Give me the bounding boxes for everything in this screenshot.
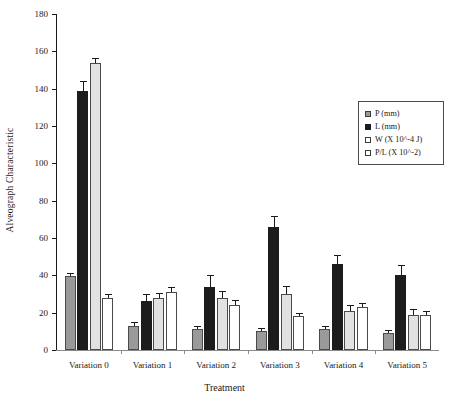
bar [166,292,177,350]
error-bar [401,266,402,275]
bar-group [375,14,439,350]
error-bar [83,82,84,90]
error-bar [274,217,275,226]
error-bar [95,59,96,64]
error-bar-cap [207,275,214,276]
bar [357,307,368,350]
error-bar-cap [296,313,303,314]
error-bar-cap [194,326,201,327]
error-bar-cap [156,293,163,294]
error-bar-cap [271,216,278,217]
x-tick-mark [375,350,376,354]
error-bar [197,327,198,330]
legend-swatch-w [365,137,371,143]
bar-group [248,14,312,350]
error-bar-cap [168,287,175,288]
plot-area [57,14,439,350]
bar [293,316,304,350]
legend-swatch-l [365,124,371,130]
legend-swatch-p [365,111,371,117]
error-bar [299,314,300,317]
error-bar-cap [410,309,417,310]
chart-legend: P (mm) L (mm) W (X 10^-4 J) P/L (X 10^-2… [358,101,444,165]
error-bar-cap [258,328,265,329]
bar [268,227,279,350]
legend-label-w: W (X 10^-4 J) [375,135,422,144]
bar [395,275,406,350]
bar-group [121,14,185,350]
error-bar-cap [359,303,366,304]
error-bar [350,306,351,311]
legend-swatch-pl [365,150,371,156]
legend-label-pl: P/L (X 10^-2) [375,148,421,157]
error-bar [362,304,363,307]
y-tick-label: 100 [20,159,48,168]
error-bar [210,276,211,286]
x-tick-mark [312,350,313,354]
bar [344,311,355,350]
y-tick-label: 80 [20,196,48,205]
x-tick-label: Variation 1 [133,360,173,370]
y-tick-label: 0 [20,346,48,355]
bar [102,298,113,350]
x-tick-mark [184,350,185,354]
error-bar [146,295,147,302]
error-bar [235,301,236,305]
x-tick-label: Variation 5 [387,360,427,370]
bar [229,305,240,350]
error-bar-cap [398,265,405,266]
error-bar [159,294,160,298]
bar [332,264,343,350]
x-tick-label: Variation 2 [196,360,236,370]
error-bar-cap [322,326,329,327]
bar [128,326,139,350]
error-bar [286,287,287,294]
bar [256,331,267,350]
bar [65,276,76,350]
error-bar-cap [92,58,99,59]
error-bar-cap [131,322,138,323]
x-tick-mark [248,350,249,354]
y-tick-label: 20 [20,308,48,317]
error-bar-cap [347,305,354,306]
legend-item: P/L (X 10^-2) [365,146,438,159]
y-tick-label: 40 [20,271,48,280]
bar [204,287,215,350]
bar-group [184,14,248,350]
bar [217,298,228,350]
legend-item: P (mm) [365,107,438,120]
y-axis-title: Alveograph Characteristic [2,0,18,360]
legend-item: W (X 10^-4 J) [365,133,438,146]
error-bar [388,331,389,333]
error-bar-cap [143,294,150,295]
y-tick-label: 160 [20,47,48,56]
bar [319,329,330,350]
bar [77,91,88,350]
y-tick-label: 140 [20,84,48,93]
bar [383,333,394,350]
bar [420,315,431,350]
bar [141,301,152,350]
legend-label-l: L (mm) [375,122,400,131]
error-bar [325,327,326,330]
legend-item: L (mm) [365,120,438,133]
error-bar [222,292,223,298]
alveograph-bar-chart: Alveograph Characteristic 02040608010012… [0,0,449,404]
error-bar-cap [283,286,290,287]
bar [192,329,203,350]
y-tick-label: 120 [20,122,48,131]
bar [408,315,419,350]
error-bar-cap [423,311,430,312]
bar [153,298,164,350]
error-bar [108,295,109,298]
bar-group [312,14,376,350]
error-bar-cap [80,81,87,82]
error-bar [70,274,71,276]
error-bar-cap [67,273,74,274]
error-bar [261,329,262,331]
error-bar [337,256,338,264]
error-bar [134,323,135,326]
x-tick-label: Variation 0 [69,360,109,370]
error-bar [171,288,172,292]
x-tick-mark [121,350,122,354]
